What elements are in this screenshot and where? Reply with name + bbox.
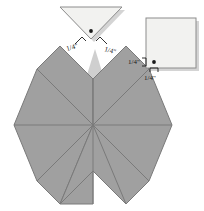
triangle-seam-dot	[89, 29, 93, 33]
setting-triangle[interactable]	[60, 7, 122, 39]
corner-square-group	[146, 18, 196, 68]
square-label-left: 1/4"	[128, 58, 140, 66]
figure-svg: 1/4" 1/4" 1/4" 1/4"	[0, 0, 204, 211]
triangle-seam-bracket-left	[78, 37, 86, 41]
square-label-bottom: 1/4"	[144, 74, 156, 82]
quilt-diagram-canvas: 1/4" 1/4" 1/4" 1/4"	[0, 0, 204, 211]
square-seam-dot	[152, 60, 156, 64]
triangle-seam-tick-right	[104, 41, 107, 44]
triangle-label-left: 1/4"	[65, 42, 79, 53]
setting-triangle-group	[60, 7, 122, 39]
triangle-label-right: 1/4"	[103, 45, 117, 56]
